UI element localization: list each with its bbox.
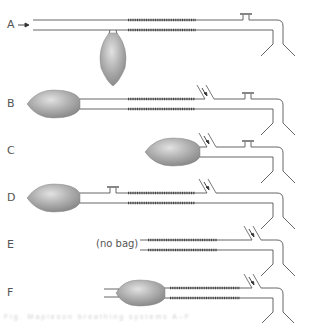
circuit-d xyxy=(27,179,295,229)
tube-bottom-wall xyxy=(80,203,273,229)
tube-bottom-wall xyxy=(33,30,273,56)
row-label-b: B xyxy=(7,97,15,110)
reservoir-bag xyxy=(27,90,80,118)
row-label-d: D xyxy=(7,191,15,204)
row-label-a: A xyxy=(7,18,15,31)
fresh-gas-inlet xyxy=(197,85,214,99)
fresh-gas-inlet xyxy=(244,274,261,288)
row-label-f: F xyxy=(7,286,13,299)
valve-stem xyxy=(245,94,251,99)
tube-bottom-wall xyxy=(140,250,273,276)
circuit-b xyxy=(27,85,295,135)
fresh-gas-inlet xyxy=(199,133,216,147)
reservoir-bag xyxy=(145,138,200,166)
arrowhead-icon xyxy=(206,141,209,145)
no-bag-label: (no bag) xyxy=(96,238,138,249)
tube-top-wall xyxy=(33,20,295,56)
row-label-e: E xyxy=(7,238,14,251)
arrowhead-icon xyxy=(25,23,29,27)
fresh-gas-inlet xyxy=(199,179,216,193)
reservoir-bag xyxy=(116,280,165,306)
arrowhead-icon xyxy=(251,234,254,238)
valve-stem xyxy=(110,188,116,193)
circuit-a xyxy=(18,14,295,86)
figure-caption: Fig. Mapleson breathing systems A–F xyxy=(4,313,191,320)
reservoir-bag xyxy=(27,184,80,212)
fresh-gas-inlet xyxy=(244,226,261,240)
tube-top-wall xyxy=(140,240,295,276)
tube-top-wall xyxy=(80,193,295,229)
tube-top-wall xyxy=(200,147,295,183)
circuit-c xyxy=(145,133,295,183)
arrowhead-icon xyxy=(206,187,209,191)
mapleson-diagram xyxy=(0,0,310,323)
arrowhead-icon xyxy=(251,282,254,286)
tube-bottom-wall xyxy=(80,109,273,135)
valve-stem xyxy=(243,15,249,20)
reservoir-bag xyxy=(100,33,126,86)
tube-top-wall xyxy=(80,99,295,135)
circuit-e xyxy=(140,226,295,276)
row-label-c: C xyxy=(7,144,15,157)
arrowhead-icon xyxy=(204,93,207,97)
valve-stem xyxy=(245,142,251,147)
tube-bottom-wall xyxy=(200,157,273,183)
